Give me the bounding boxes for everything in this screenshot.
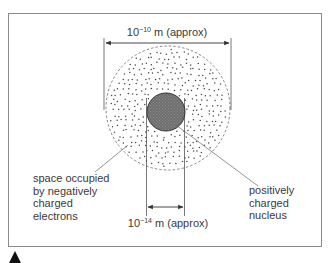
nucleus bbox=[147, 93, 185, 131]
nucleus-annotation: positively charged nucleus bbox=[249, 184, 297, 221]
electron-annotation: space occupied by negatively charged ele… bbox=[33, 172, 113, 222]
electron-leader-line bbox=[95, 145, 128, 172]
atom-diagram: 10−10 m (approx) 10−14 m (approx) space … bbox=[0, 0, 334, 263]
triangle-up-icon bbox=[9, 251, 21, 263]
nucleus-leader-line bbox=[176, 125, 258, 186]
atom-diameter-label: 10−10 m (approx) bbox=[127, 26, 207, 38]
nucleus-diameter-label: 10−14 m (approx) bbox=[128, 217, 208, 229]
